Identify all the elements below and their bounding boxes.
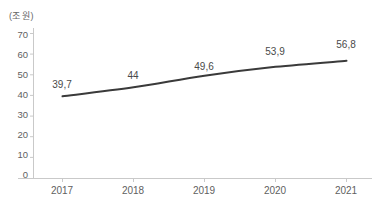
plot-area: [0, 0, 381, 207]
line-chart: (조 원) 70 60 50 40 30 20 10 0 2017 2018 2…: [0, 0, 381, 207]
data-series-line: [63, 61, 347, 96]
